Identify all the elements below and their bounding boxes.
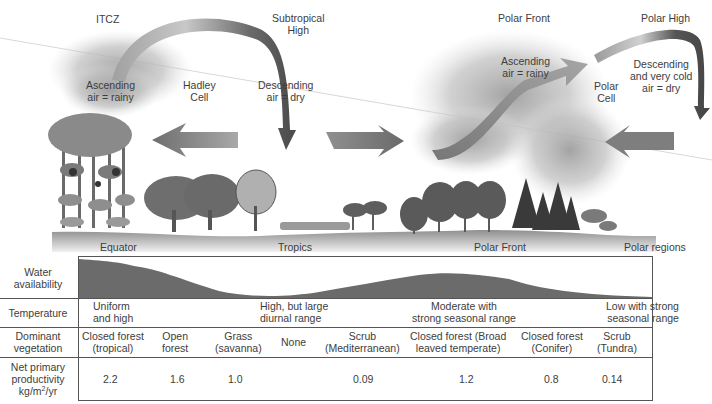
npp-open-forest: 1.6 xyxy=(170,373,185,385)
polar-front-top-label: Polar Front xyxy=(498,12,550,24)
vegetation-none: None xyxy=(281,336,306,348)
itcz-label: ITCZ xyxy=(96,13,119,25)
npp-tundra: 0.14 xyxy=(602,373,622,385)
tundra-scrub xyxy=(581,209,617,231)
ferrel-surface-arrow-right xyxy=(326,125,404,157)
hadley-surface-arrow-left xyxy=(152,123,238,157)
temperate-forest xyxy=(400,181,506,234)
subtropical-high-label: Subtropical High xyxy=(272,12,325,36)
polar-ascending-label: Ascending air = rainy xyxy=(501,55,550,79)
npp-conifer: 0.8 xyxy=(544,373,559,385)
hadley-cell-label: Hadley Cell xyxy=(183,79,216,103)
vegetation-tundra: Scrub(Tundra) xyxy=(597,330,637,354)
table-bottom-border xyxy=(78,400,653,401)
vegetation-savanna: Grass(savanna) xyxy=(215,330,262,354)
hadley-ascending-label: Ascending air = rainy xyxy=(86,79,135,103)
npp-mediterranean: 0.09 xyxy=(353,373,373,385)
row-header-npp: Net primary productivity kg/m2/yr xyxy=(0,361,76,397)
ground xyxy=(52,230,656,252)
npp-temperate: 1.2 xyxy=(459,373,474,385)
temperature-polar-front: Moderate withstrong seasonal range xyxy=(412,300,516,324)
polar-front-ground-label: Polar Front xyxy=(474,241,526,253)
row-header-vegetation: Dominant vegetation xyxy=(0,330,76,354)
row-divider-1 xyxy=(0,298,652,299)
vegetation-temperate: Closed forest (Broadleaved temperate) xyxy=(410,330,506,354)
polar-cell-label: Polar Cell xyxy=(594,80,619,104)
row-header-water: Water availability xyxy=(0,266,76,290)
circulation-illustration xyxy=(0,0,712,260)
row-divider-2 xyxy=(0,327,652,328)
tropical-forest xyxy=(48,113,135,228)
table-right-border xyxy=(652,256,653,400)
hadley-descending-label: Descending air = dry xyxy=(258,79,313,103)
temperature-polar: Low with strongseasonal range xyxy=(606,300,679,324)
row-divider-3 xyxy=(0,357,652,358)
water-availability-profile xyxy=(79,257,652,298)
open-forest xyxy=(144,170,276,232)
npp-savanna: 1.0 xyxy=(228,373,243,385)
equator-label: Equator xyxy=(100,241,137,253)
vegetation-open-forest: Openforest xyxy=(162,330,188,354)
npp-tropical: 2.2 xyxy=(103,373,118,385)
grass xyxy=(280,222,350,230)
tropics-label: Tropics xyxy=(278,241,312,253)
temperature-tropics: High, but largediurnal range xyxy=(260,300,328,324)
vegetation-conifer: Closed forest(Conifer) xyxy=(521,330,583,354)
polar-descending-label: Descending and very cold air = dry xyxy=(630,58,692,94)
polar-regions-label: Polar regions xyxy=(624,241,686,253)
polar-high-label: Polar High xyxy=(641,12,690,24)
temperature-equator: Uniformand high xyxy=(93,300,133,324)
vegetation-mediterranean: Scrub(Mediterranean) xyxy=(325,330,400,354)
row-header-temperature: Temperature xyxy=(0,307,76,319)
vegetation-tropical: Closed forest(tropical) xyxy=(82,330,144,354)
